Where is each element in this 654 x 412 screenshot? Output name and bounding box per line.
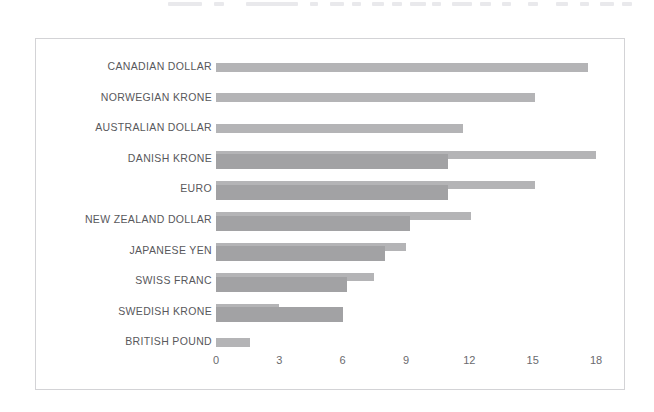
artifact-mark: [556, 2, 568, 6]
category-label: JAPANESE YEN: [12, 245, 212, 256]
artifact-mark: [432, 2, 441, 6]
artifact-mark: [480, 2, 491, 6]
bar-series-1: [216, 63, 588, 72]
bar-series-1: [216, 124, 463, 133]
chart-frame: CANADIAN DOLLARNORWEGIAN KRONEAUSTRALIAN…: [35, 38, 625, 390]
category-label: BRITISH POUND: [12, 336, 212, 347]
category-label: CANADIAN DOLLAR: [12, 61, 212, 72]
artifact-mark: [246, 2, 298, 6]
artifact-mark: [410, 2, 426, 6]
category-label: DANISH KRONE: [12, 153, 212, 164]
bar-series-2: [216, 185, 448, 200]
artifact-mark: [330, 2, 344, 6]
plot-area: CANADIAN DOLLARNORWEGIAN KRONEAUSTRALIAN…: [36, 39, 626, 391]
bar-series-2: [216, 277, 347, 292]
x-axis-tick-label: 15: [518, 355, 548, 366]
x-axis-tick-label: 9: [391, 355, 421, 366]
artifact-mark: [452, 2, 472, 6]
bar-series-1: [216, 338, 250, 347]
category-label: NEW ZEALAND DOLLAR: [12, 214, 212, 225]
artifact-mark: [352, 2, 361, 6]
category-label: AUSTRALIAN DOLLAR: [12, 122, 212, 133]
category-label: NORWEGIAN KRONE: [12, 92, 212, 103]
category-label: SWISS FRANC: [12, 275, 212, 286]
artifact-mark: [168, 2, 202, 6]
bar-series-1: [216, 93, 535, 102]
artifact-mark: [502, 2, 511, 6]
artifact-mark: [214, 2, 224, 6]
artifact-mark: [580, 2, 589, 6]
x-axis-tick-label: 6: [328, 355, 358, 366]
x-axis-tick-label: 3: [264, 355, 294, 366]
x-axis-tick-label: 0: [201, 355, 231, 366]
artifact-mark: [372, 2, 384, 6]
category-label: EURO: [12, 183, 212, 194]
artifact-mark: [622, 2, 632, 6]
bar-series-2: [216, 307, 343, 322]
category-label: SWEDISH KRONE: [12, 306, 212, 317]
scan-artifact-strip: [0, 0, 654, 12]
artifact-mark: [310, 2, 318, 6]
bar-series-2: [216, 216, 410, 231]
artifact-mark: [600, 2, 614, 6]
x-axis-tick-label: 12: [454, 355, 484, 366]
bar-series-2: [216, 246, 385, 261]
bar-series-2: [216, 154, 448, 169]
artifact-mark: [528, 2, 538, 6]
x-axis-tick-label: 18: [581, 355, 611, 366]
artifact-mark: [392, 2, 402, 6]
